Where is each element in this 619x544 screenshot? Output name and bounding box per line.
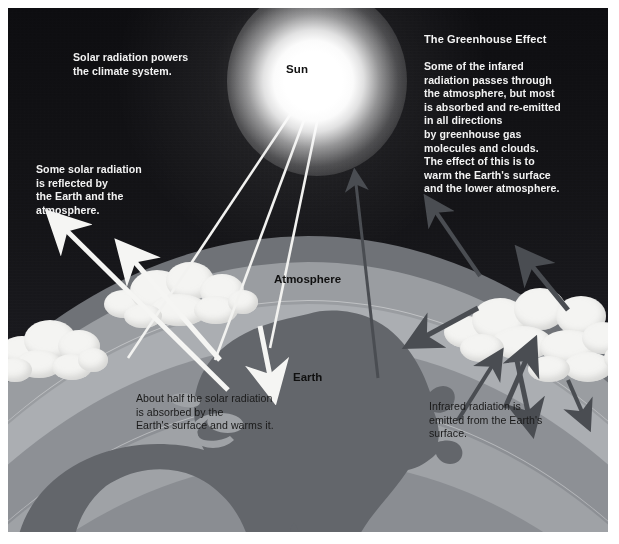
bottom-margin	[0, 532, 619, 544]
annotation-reflected: Some solar radiation is reflected by the…	[36, 163, 142, 217]
earth-label: Earth	[293, 371, 322, 383]
greenhouse-effect-title: The Greenhouse Effect	[424, 33, 547, 45]
sun-label: Sun	[286, 63, 308, 75]
atmosphere-label: Atmosphere	[274, 273, 341, 285]
annotation-emitted: Infrared radiation is emitted from the E…	[429, 400, 542, 441]
greenhouse-effect-diagram: Sun Solar radiation powers the climate s…	[0, 0, 619, 544]
annotation-absorbed: About half the solar radiation is absorb…	[136, 392, 274, 433]
annotation-solar-powers: Solar radiation powers the climate syste…	[73, 51, 188, 78]
annotation-greenhouse-body: Some of the infared radiation passes thr…	[424, 60, 561, 196]
illustration-frame: Sun Solar radiation powers the climate s…	[8, 8, 608, 532]
